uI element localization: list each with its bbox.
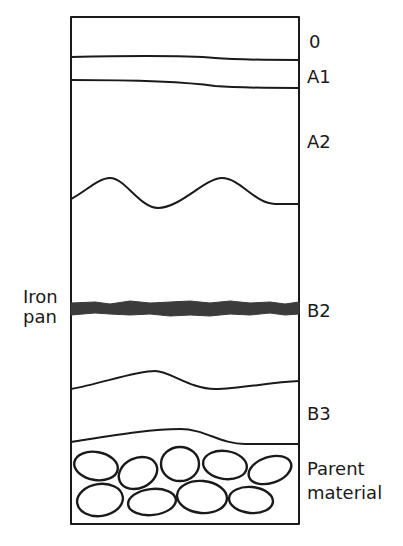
stone: [201, 448, 248, 482]
boundary-a1-a2: [71, 80, 299, 88]
label-horizon-o: 0: [309, 31, 320, 52]
stone: [75, 481, 125, 519]
label-parent-line2: material: [307, 482, 382, 503]
stone: [245, 451, 295, 489]
label-horizon-a1: A1: [307, 66, 331, 87]
boundary-b3-parent: [71, 429, 299, 444]
label-iron-pan-line1: Iron: [23, 286, 58, 307]
label-horizon-a2: A2: [307, 131, 331, 152]
stone: [176, 479, 229, 515]
boundary-a2-b2-wavy: [71, 178, 299, 208]
stone: [161, 447, 199, 481]
stone: [127, 487, 177, 518]
iron-pan-band: [71, 301, 299, 316]
boundary-o-a1: [71, 56, 299, 60]
label-horizon-b2: B2: [307, 300, 331, 321]
label-horizon-b3: B3: [307, 403, 331, 424]
label-iron-pan-line2: pan: [23, 306, 57, 327]
soil-profile-diagram: 0 A1 A2 B2 B3 Parent material Iron pan: [0, 0, 403, 546]
label-parent-line1: Parent: [307, 458, 365, 479]
stone: [72, 448, 120, 483]
stone: [228, 485, 274, 515]
boundary-b2-b3: [71, 371, 299, 389]
